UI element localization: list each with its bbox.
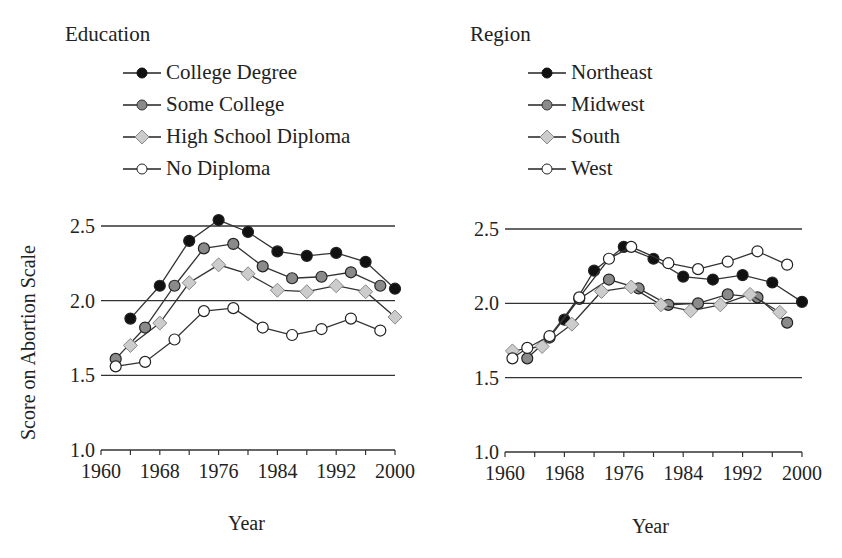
y-tick-label: 1.5	[70, 364, 95, 386]
diamond-marker-icon	[182, 276, 196, 290]
y-tick-label: 2.5	[474, 218, 499, 240]
filled-circle-marker-icon	[589, 265, 600, 276]
filled-circle-marker-icon	[360, 256, 371, 267]
region-panel: Region Northeast Midwest South West Year…	[420, 0, 842, 558]
x-tick-label: 1968	[140, 460, 180, 482]
y-tick-label: 1.0	[70, 439, 95, 461]
filled-circle-marker-icon	[316, 271, 327, 282]
filled-circle-marker-icon	[375, 280, 386, 291]
x-tick-label: 1992	[723, 462, 763, 484]
filled-circle-marker-icon	[287, 273, 298, 284]
open-circle-marker-icon	[169, 334, 180, 345]
open-circle-marker-icon	[345, 313, 356, 324]
filled-circle-marker-icon	[737, 270, 748, 281]
open-circle-marker-icon	[722, 256, 733, 267]
education-line-chart: 1960196819761984199220001.01.52.02.5	[0, 0, 420, 558]
x-tick-label: 1976	[199, 460, 239, 482]
open-circle-marker-icon	[110, 361, 121, 372]
diamond-marker-icon	[329, 279, 343, 293]
filled-circle-marker-icon	[228, 238, 239, 249]
filled-circle-marker-icon	[678, 271, 689, 282]
filled-circle-marker-icon	[272, 246, 283, 257]
diamond-marker-icon	[270, 283, 284, 297]
x-tick-label: 1976	[604, 462, 644, 484]
diamond-marker-icon	[123, 338, 137, 352]
open-circle-marker-icon	[140, 356, 151, 367]
filled-circle-marker-icon	[198, 243, 209, 254]
open-circle-marker-icon	[316, 324, 327, 335]
diamond-marker-icon	[212, 258, 226, 272]
open-circle-marker-icon	[603, 253, 614, 264]
diamond-marker-icon	[241, 267, 255, 281]
x-tick-label: 1992	[316, 460, 356, 482]
open-circle-marker-icon	[507, 353, 518, 364]
open-circle-marker-icon	[693, 264, 704, 275]
x-tick-label: 1984	[257, 460, 297, 482]
x-tick-label: 2000	[375, 460, 415, 482]
filled-circle-marker-icon	[125, 313, 136, 324]
open-circle-marker-icon	[574, 292, 585, 303]
filled-circle-marker-icon	[522, 353, 533, 364]
x-tick-label: 1960	[485, 462, 525, 484]
open-circle-marker-icon	[522, 342, 533, 353]
x-tick-label: 2000	[782, 462, 822, 484]
filled-circle-marker-icon	[767, 277, 778, 288]
open-circle-marker-icon	[544, 331, 555, 342]
y-tick-label: 1.5	[474, 367, 499, 389]
filled-circle-marker-icon	[390, 283, 401, 294]
y-tick-label: 2.0	[70, 290, 95, 312]
open-circle-marker-icon	[626, 241, 637, 252]
open-circle-marker-icon	[663, 258, 674, 269]
filled-circle-marker-icon	[184, 235, 195, 246]
y-tick-label: 1.0	[474, 441, 499, 463]
series-line	[116, 244, 381, 359]
filled-circle-marker-icon	[301, 250, 312, 261]
open-circle-marker-icon	[752, 246, 763, 257]
filled-circle-marker-icon	[797, 296, 808, 307]
filled-circle-marker-icon	[257, 261, 268, 272]
x-tick-label: 1968	[544, 462, 584, 484]
open-circle-marker-icon	[375, 325, 386, 336]
open-circle-marker-icon	[287, 330, 298, 341]
x-tick-label: 1984	[663, 462, 703, 484]
filled-circle-marker-icon	[154, 280, 165, 291]
filled-circle-marker-icon	[722, 289, 733, 300]
filled-circle-marker-icon	[603, 274, 614, 285]
diamond-marker-icon	[300, 285, 314, 299]
open-circle-marker-icon	[228, 303, 239, 314]
open-circle-marker-icon	[782, 259, 793, 270]
open-circle-marker-icon	[257, 322, 268, 333]
filled-circle-marker-icon	[243, 226, 254, 237]
region-line-chart: 1960196819761984199220001.01.52.02.5	[420, 0, 842, 558]
x-tick-label: 1960	[81, 460, 121, 482]
series-line	[116, 308, 381, 366]
education-panel: Education College Degree Some College Hi…	[0, 0, 420, 558]
diamond-marker-icon	[153, 316, 167, 330]
filled-circle-marker-icon	[213, 215, 224, 226]
y-tick-label: 2.5	[70, 215, 95, 237]
open-circle-marker-icon	[198, 306, 209, 317]
y-tick-label: 2.0	[474, 292, 499, 314]
filled-circle-marker-icon	[331, 247, 342, 258]
filled-circle-marker-icon	[782, 317, 793, 328]
filled-circle-marker-icon	[169, 280, 180, 291]
filled-circle-marker-icon	[707, 274, 718, 285]
filled-circle-marker-icon	[345, 267, 356, 278]
